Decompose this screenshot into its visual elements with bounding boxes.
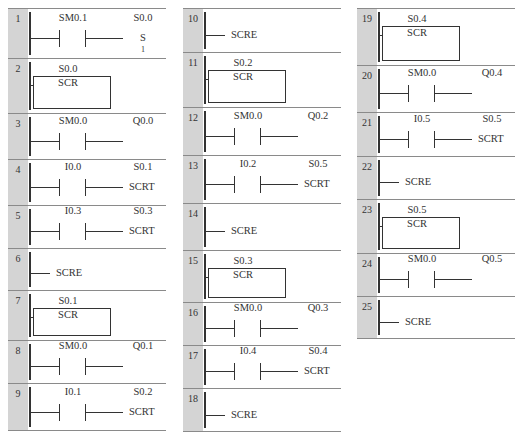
power-rail: [204, 111, 206, 152]
network-number: 1: [8, 9, 28, 58]
network-8: 8SM0.0Q0.1: [8, 340, 166, 383]
network-23: 23S0.5SCR: [357, 199, 515, 253]
power-rail: [29, 387, 31, 427]
power-rail: [204, 159, 206, 200]
power-rail: [378, 116, 380, 153]
contact-address: I0.4: [227, 345, 269, 356]
power-rail: [29, 12, 31, 55]
contact-address: SM0.0: [227, 110, 269, 121]
network-21: 21I0.5S0.5SCRT: [357, 112, 515, 156]
wire: [30, 412, 59, 413]
scr-address: S0.4: [387, 13, 447, 24]
contact-address: SM0.0: [52, 340, 94, 351]
wire: [86, 412, 123, 413]
coil-address: S0.0: [126, 12, 160, 23]
network-number: 5: [8, 206, 28, 248]
network-3: 3SM0.0Q0.0: [8, 113, 166, 159]
coil-type: S: [140, 32, 146, 43]
contact-address: I0.1: [52, 386, 94, 397]
wire: [379, 182, 399, 183]
contact-address: I0.3: [52, 205, 94, 216]
network-22: 22SCRE: [357, 156, 515, 199]
wire: [435, 279, 472, 280]
coil-address: Q0.0: [126, 115, 160, 126]
network-11: 11S0.2SCR: [183, 52, 341, 107]
coil-address: Q0.2: [301, 110, 335, 121]
network-number: 19: [357, 9, 377, 65]
network-10: 10SCRE: [183, 8, 341, 52]
coil-type: SCRT: [129, 406, 155, 417]
wire: [205, 184, 234, 185]
network-number: 24: [357, 254, 377, 296]
wire: [379, 322, 399, 323]
contact-left-bar: [59, 133, 60, 150]
network-number: 4: [8, 160, 28, 205]
network-number: 8: [8, 341, 28, 383]
contact-left-bar: [59, 358, 60, 375]
coil-type: SCRT: [129, 225, 155, 236]
network-number: 13: [183, 156, 203, 203]
network-19: 19S0.4SCR: [357, 8, 515, 65]
scr-address: S0.2: [213, 57, 273, 68]
ladder-column: 19S0.4SCR20SM0.0Q0.421I0.5S0.5SCRT22SCRE…: [357, 8, 515, 438]
network-number: 9: [8, 384, 28, 430]
wire: [86, 231, 123, 232]
contact-left-bar: [408, 85, 409, 102]
power-rail: [378, 12, 380, 62]
contact-left-bar: [234, 128, 235, 145]
wire: [205, 231, 225, 232]
coil-address: S0.5: [475, 113, 509, 124]
network-9: 9I0.1S0.2SCRT: [8, 383, 166, 431]
power-rail: [378, 69, 380, 109]
contact-left-bar: [59, 223, 60, 240]
power-rail: [204, 207, 206, 247]
scr-address: S0.5: [387, 204, 447, 215]
scr-address: S0.1: [38, 295, 98, 306]
contact-left-bar: [234, 363, 235, 380]
contact-left-bar: [408, 131, 409, 148]
coil-address: Q0.5: [475, 253, 509, 264]
wire: [435, 139, 472, 140]
coil-address: S0.4: [301, 345, 335, 356]
network-17: 17I0.4S0.4SCRT: [183, 345, 341, 388]
power-rail: [204, 306, 206, 342]
network-number: 2: [8, 59, 28, 113]
power-rail: [29, 163, 31, 202]
network-number: 20: [357, 66, 377, 112]
network-number: 12: [183, 108, 203, 155]
contact-left-bar: [408, 271, 409, 288]
scr-address: S0.0: [38, 63, 98, 74]
contact-left-bar: [234, 320, 235, 337]
wire: [205, 328, 234, 329]
wire: [30, 273, 50, 274]
contact-address: SM0.0: [401, 253, 443, 264]
wire: [261, 184, 298, 185]
scr-label: SCR: [387, 27, 447, 38]
scre-label: SCRE: [56, 267, 82, 278]
network-number: 25: [357, 297, 377, 338]
wire: [435, 93, 472, 94]
network-number: 21: [357, 113, 377, 156]
network-6: 6SCRE: [8, 248, 166, 290]
coil-address: S0.5: [301, 158, 335, 169]
scre-label: SCRE: [405, 176, 431, 187]
contact-left-bar: [59, 179, 60, 196]
ladder-column: 1SM0.1S0.0S12S0.0SCR3SM0.0Q0.04I0.0S0.1S…: [8, 8, 166, 438]
network-25: 25SCRE: [357, 296, 515, 339]
wire: [86, 187, 123, 188]
contact-address: I0.2: [227, 158, 269, 169]
scr-label: SCR: [38, 309, 98, 320]
network-number: 22: [357, 157, 377, 199]
power-rail: [29, 294, 31, 337]
scre-label: SCRE: [231, 225, 257, 236]
contact-address: I0.5: [401, 113, 443, 124]
power-rail: [378, 160, 380, 196]
network-number: 15: [183, 251, 203, 302]
wire: [205, 371, 234, 372]
network-14: 14SCRE: [183, 203, 341, 250]
network-5: 5I0.3S0.3SCRT: [8, 205, 166, 248]
wire: [86, 38, 123, 39]
network-12: 12SM0.0Q0.2: [183, 107, 341, 155]
wire: [30, 366, 59, 367]
network-20: 20SM0.0Q0.4: [357, 65, 515, 112]
